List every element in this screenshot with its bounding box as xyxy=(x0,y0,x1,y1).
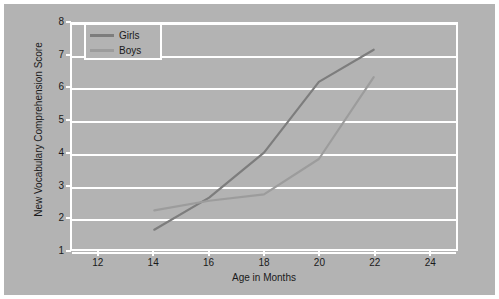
legend-label-girls: Girls xyxy=(119,31,140,41)
legend-swatch-girls xyxy=(90,34,114,37)
y-tick-label: 8 xyxy=(46,16,64,27)
x-tick-mark xyxy=(429,251,431,256)
legend-swatch-boys xyxy=(90,49,114,52)
series-line-girls xyxy=(154,50,373,230)
y-tick-label: 2 xyxy=(46,212,64,223)
x-tick-mark xyxy=(152,251,154,256)
x-tick-mark xyxy=(97,251,99,256)
x-tick-mark xyxy=(318,251,320,256)
x-tick-label: 16 xyxy=(194,257,224,268)
y-tick-label: 6 xyxy=(46,81,64,92)
x-tick-label: 22 xyxy=(360,257,390,268)
y-tick-label: 5 xyxy=(46,114,64,125)
y-tick-label: 4 xyxy=(46,147,64,158)
x-tick-mark xyxy=(263,251,265,256)
legend-item-girls: Girls xyxy=(90,28,156,43)
x-tick-label: 14 xyxy=(138,257,168,268)
x-tick-label: 20 xyxy=(304,257,334,268)
x-tick-label: 24 xyxy=(415,257,445,268)
y-tick-label: 3 xyxy=(46,180,64,191)
series-line-boys xyxy=(154,77,373,210)
y-axis-title: New Vocabulary Comprehension Score xyxy=(33,10,44,250)
x-tick-mark xyxy=(208,251,210,256)
chart-legend: Girls Boys xyxy=(84,23,162,60)
y-tick-label: 7 xyxy=(46,49,64,60)
x-tick-mark xyxy=(374,251,376,256)
chart-figure: New Vocabulary Comprehension Score 12345… xyxy=(4,4,495,295)
y-tick-label: 1 xyxy=(46,245,64,256)
x-tick-label: 18 xyxy=(249,257,279,268)
legend-label-boys: Boys xyxy=(119,46,141,56)
x-axis-title: Age in Months xyxy=(70,272,458,283)
legend-item-boys: Boys xyxy=(90,43,156,58)
x-tick-label: 12 xyxy=(83,257,113,268)
